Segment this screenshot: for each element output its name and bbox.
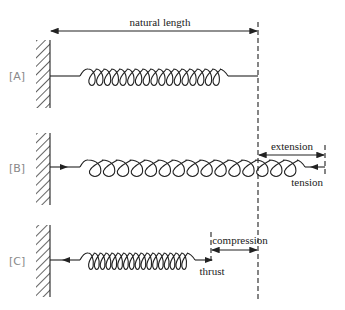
wall-b [36,133,50,205]
thrust-label: thrust [199,265,224,277]
extension-label: extension [271,140,314,152]
tension-label: tension [291,176,323,188]
compression-label: compression [212,234,268,246]
wall-reaction-arrow-c [62,257,70,263]
tension-arrow-icon [310,164,318,170]
wall-a [36,40,50,108]
panel-a-tag: [A] [9,70,25,83]
spring-diagram: natural length [A] [B] extension tension… [0,0,345,310]
panel-c: [C] compression thrust [9,225,268,297]
thrust-arrow-icon [205,257,213,263]
panel-a: [A] [9,40,258,108]
panel-c-tag: [C] [9,255,25,268]
natural-length-label: natural length [130,16,191,28]
spring-b-coil [80,160,305,177]
panel-b: [B] extension tension [9,133,325,205]
natural-length-dimension: natural length [51,16,257,31]
spring-a-coil [80,69,228,86]
panel-b-tag: [B] [9,162,25,175]
wall-c [36,225,50,297]
spring-c-coil [80,253,195,270]
